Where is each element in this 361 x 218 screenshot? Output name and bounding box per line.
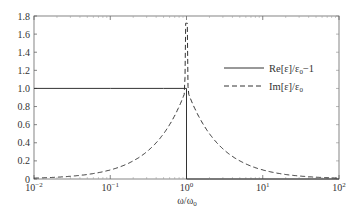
y-tick-label: 0.8 (18, 101, 31, 112)
legend-label-re: Re[ε]/ε0−1 (269, 63, 314, 76)
x-tick-label: 10−1 (102, 181, 120, 193)
y-axis: 00.20.40.60.81.01.21.41.61.8 (18, 11, 340, 185)
x-axis: 10−210−1100101102 (25, 16, 346, 193)
y-tick-label: 1.0 (18, 83, 31, 94)
y-tick-label: 1.8 (18, 11, 31, 22)
series-re (34, 88, 339, 179)
legend-label-im: Im[ε]/ε0 (269, 81, 303, 94)
y-tick-label: 1.6 (18, 29, 31, 40)
legend: Re[ε]/ε0−1 Im[ε]/ε0 (224, 63, 314, 94)
y-tick-label: 0.6 (18, 119, 31, 130)
x-tick-label: 100 (180, 181, 194, 193)
chart: 00.20.40.60.81.01.21.41.61.8 10−210−1100… (0, 0, 361, 218)
x-axis-label: ω/ω0 (177, 195, 197, 208)
x-tick-label: 102 (332, 181, 346, 193)
y-tick-label: 0.2 (18, 155, 31, 166)
x-tick-label: 10−2 (25, 181, 43, 193)
y-tick-label: 1.4 (18, 47, 31, 58)
y-tick-label: 1.2 (18, 65, 31, 76)
y-tick-label: 0.4 (18, 137, 31, 148)
x-tick-label: 101 (256, 181, 270, 193)
